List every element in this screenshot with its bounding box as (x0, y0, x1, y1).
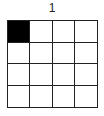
grid-cell-r1-c2[interactable] (53, 43, 75, 65)
grid-cell-r3-c3[interactable] (75, 86, 97, 108)
grid-cell-r2-c2[interactable] (53, 64, 75, 86)
grid-cell-r3-c0[interactable] (8, 86, 30, 108)
puzzle-grid (7, 20, 98, 108)
grid-cell-r0-c2[interactable] (53, 21, 75, 43)
grid-cell-r0-c0[interactable] (8, 21, 30, 43)
grid-cell-r2-c0[interactable] (8, 64, 30, 86)
grid-cell-r2-c3[interactable] (75, 64, 97, 86)
grid-cell-r1-c1[interactable] (30, 43, 52, 65)
puzzle-number-label: 1 (0, 1, 104, 15)
grid-cell-r3-c1[interactable] (30, 86, 52, 108)
grid-cell-r2-c1[interactable] (30, 64, 52, 86)
grid-cell-r3-c2[interactable] (53, 86, 75, 108)
grid-cell-r0-c1[interactable] (30, 21, 52, 43)
grid-cell-r0-c3[interactable] (75, 21, 97, 43)
grid-cell-r1-c0[interactable] (8, 43, 30, 65)
grid-cell-r1-c3[interactable] (75, 43, 97, 65)
